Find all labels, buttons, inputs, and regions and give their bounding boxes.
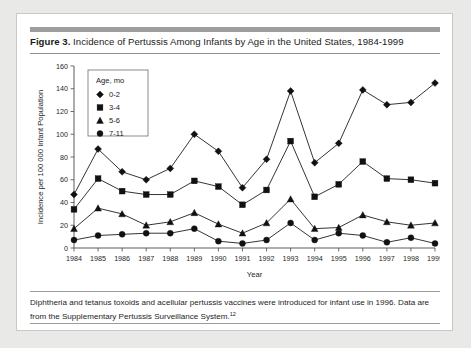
y-tick-label: 160 — [56, 62, 68, 71]
top-decorative-rule — [30, 27, 440, 32]
data-point-3-4 — [336, 181, 342, 187]
data-point-3-4 — [216, 184, 222, 190]
data-point-7-11 — [336, 230, 342, 236]
x-tick-label: 1998 — [403, 254, 419, 263]
data-point-5-6 — [95, 205, 102, 211]
data-point-0-2 — [143, 176, 150, 183]
chart-legend: Age, mo0-23-45-67-11 — [88, 70, 148, 138]
data-point-7-11 — [71, 237, 77, 243]
series-line-5-6 — [74, 199, 435, 233]
data-point-5-6 — [359, 212, 366, 218]
footnote-bottom-rule — [30, 323, 440, 324]
x-tick-label: 1997 — [379, 254, 395, 263]
figure-number: Figure 3. — [30, 36, 70, 47]
data-point-0-2 — [71, 191, 78, 198]
x-tick-label: 1996 — [355, 254, 371, 263]
y-tick-label: 100 — [56, 130, 68, 139]
data-point-5-6 — [239, 230, 246, 236]
y-tick-label: 80 — [60, 153, 68, 162]
footnote-top-rule — [30, 291, 440, 292]
x-tick-label: 1991 — [234, 254, 250, 263]
series-3-4 — [71, 138, 438, 212]
data-point-7-11 — [432, 240, 438, 246]
x-tick-label: 1995 — [331, 254, 347, 263]
data-point-5-6 — [432, 220, 439, 226]
data-point-5-6 — [167, 218, 174, 224]
x-tick-label: 1990 — [210, 254, 226, 263]
data-point-5-6 — [191, 209, 198, 215]
data-point-3-4 — [432, 180, 438, 186]
figure-footnote: Diphtheria and tetanus toxoids and acell… — [30, 297, 442, 322]
data-point-7-11 — [239, 240, 245, 246]
x-tick-label: 1988 — [162, 254, 178, 263]
x-tick-label: 1986 — [114, 254, 130, 263]
data-point-5-6 — [287, 196, 294, 202]
x-tick-label: 1993 — [283, 254, 299, 263]
x-tick-label: 1984 — [66, 254, 82, 263]
pertussis-incidence-line-chart: 0204060801001201401601984198519861987198… — [30, 58, 440, 286]
x-tick-label: 1989 — [186, 254, 202, 263]
legend-label-5-6: 5-6 — [109, 116, 120, 125]
legend-title: Age, mo — [96, 76, 124, 85]
footnote-text: Diphtheria and tetanus toxoids and acell… — [30, 298, 429, 321]
data-point-3-4 — [312, 194, 318, 200]
data-point-7-11 — [191, 226, 197, 232]
footnote-reference-superscript: 12 — [230, 311, 236, 317]
y-tick-label: 140 — [56, 84, 68, 93]
y-axis-title: Incidence per 100 000 Infant Population — [36, 90, 45, 224]
data-point-3-4 — [143, 192, 149, 198]
legend-label-3-4: 3-4 — [109, 103, 120, 112]
data-point-0-2 — [167, 165, 174, 172]
x-tick-label: 1994 — [307, 254, 323, 263]
data-point-3-4 — [167, 192, 173, 198]
chart-plot-area: 0204060801001201401601984198519861987198… — [30, 58, 440, 286]
figure-caption: Figure 3. Incidence of Pertussis Among I… — [30, 36, 442, 47]
x-tick-label: 1987 — [138, 254, 154, 263]
data-point-7-11 — [119, 231, 125, 237]
data-point-7-11 — [288, 220, 294, 226]
y-tick-label: 120 — [56, 107, 68, 116]
data-point-3-4 — [288, 138, 294, 144]
data-point-3-4 — [384, 176, 390, 182]
data-point-7-11 — [95, 232, 101, 238]
y-tick-label: 60 — [60, 175, 68, 184]
data-point-3-4 — [240, 202, 246, 208]
data-point-7-11 — [215, 238, 221, 244]
data-point-0-2 — [383, 101, 390, 108]
data-point-3-4 — [360, 159, 366, 165]
legend-marker-3-4 — [97, 105, 103, 111]
series-7-11 — [71, 220, 438, 246]
data-point-7-11 — [384, 239, 390, 245]
series-5-6 — [71, 196, 439, 236]
data-point-7-11 — [167, 230, 173, 236]
figure-panel: Figure 3. Incidence of Pertussis Among I… — [16, 13, 453, 331]
legend-label-7-11: 7-11 — [109, 129, 124, 138]
caption-divider-rule — [30, 53, 440, 54]
data-point-3-4 — [408, 177, 414, 183]
data-point-7-11 — [264, 237, 270, 243]
data-point-3-4 — [264, 187, 270, 193]
x-tick-label: 1985 — [90, 254, 106, 263]
series-line-7-11 — [74, 223, 435, 243]
data-point-0-2 — [359, 86, 366, 93]
data-point-3-4 — [71, 206, 77, 212]
data-point-7-11 — [143, 230, 149, 236]
data-point-7-11 — [360, 232, 366, 238]
data-point-3-4 — [95, 176, 101, 182]
legend-label-0-2: 0-2 — [109, 90, 120, 99]
data-point-5-6 — [215, 221, 222, 227]
data-point-3-4 — [119, 188, 125, 194]
figure-caption-text: Incidence of Pertussis Among Infants by … — [70, 36, 403, 47]
data-point-3-4 — [191, 178, 197, 184]
data-point-0-2 — [215, 148, 222, 155]
y-tick-label: 20 — [60, 221, 68, 230]
data-point-0-2 — [191, 131, 198, 138]
x-tick-label: 1992 — [259, 254, 275, 263]
series-line-3-4 — [74, 141, 435, 209]
x-axis-title: Year — [247, 270, 263, 279]
y-tick-label: 40 — [60, 198, 68, 207]
x-tick-label: 1999 — [427, 254, 440, 263]
y-tick-label: 0 — [64, 244, 68, 253]
data-point-7-11 — [312, 237, 318, 243]
data-point-0-2 — [287, 88, 294, 95]
